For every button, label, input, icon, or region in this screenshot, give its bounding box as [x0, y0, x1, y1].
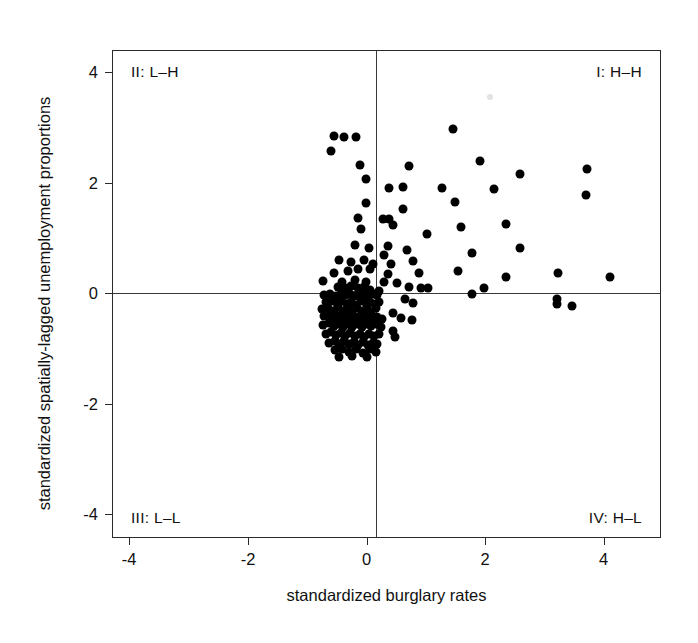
scatter-point — [391, 333, 400, 342]
scatter-point — [343, 266, 352, 275]
moran-scatterplot-figure: standardized spatially-lagged unemployme… — [0, 0, 698, 643]
x-ticklabel-0: 0 — [347, 550, 387, 569]
scatter-point — [438, 183, 447, 192]
y-axis-title: standardized spatially-lagged unemployme… — [35, 54, 54, 554]
y-ticklabel-neg4: -4 — [58, 505, 98, 524]
scatter-point — [424, 284, 433, 293]
scatter-point — [479, 284, 488, 293]
scatter-point — [449, 124, 458, 133]
scatter-point — [408, 299, 417, 308]
scatter-point — [361, 175, 370, 184]
scatter-point — [372, 347, 381, 356]
scatter-point — [329, 268, 338, 277]
scatter-point — [352, 133, 361, 142]
scatter-point — [354, 265, 363, 274]
y-tick-4 — [105, 72, 112, 73]
scatter-point — [360, 256, 369, 265]
scatter-point — [318, 277, 327, 286]
scatter-point — [335, 352, 344, 361]
x-tick-4 — [604, 538, 605, 545]
y-tick-neg2 — [105, 404, 112, 405]
scatter-point — [354, 214, 363, 223]
scatter-point — [467, 249, 476, 258]
quadrant-label-i: I: H–H — [596, 63, 642, 81]
x-tick-neg4 — [129, 538, 130, 545]
x-ticklabel-neg2: -2 — [228, 550, 268, 569]
scatter-point — [396, 313, 405, 322]
x-tick-2 — [485, 538, 486, 545]
scatter-point — [456, 223, 465, 232]
plot-area: II: L–H I: H–H III: L–L IV: H–L — [112, 50, 661, 538]
scatter-point — [329, 132, 338, 141]
scatter-point — [568, 301, 577, 310]
scatter-point — [490, 185, 499, 194]
scatter-point — [335, 256, 344, 265]
x-tick-0 — [367, 538, 368, 545]
scatter-point — [386, 259, 395, 268]
x-ticklabel-2: 2 — [465, 550, 505, 569]
scatter-point — [326, 146, 335, 155]
scatter-point — [408, 257, 417, 266]
scatter-point — [348, 351, 357, 360]
scatter-point — [379, 215, 388, 224]
scatter-point — [407, 316, 416, 325]
scatter-point — [515, 170, 524, 179]
y-ticklabel-neg2: -2 — [58, 394, 98, 413]
y-ticklabel-0: 0 — [58, 284, 98, 303]
y-tick-0 — [105, 293, 112, 294]
scatter-point — [388, 221, 397, 230]
scatter-point — [582, 191, 591, 200]
scatter-point — [392, 279, 401, 288]
scatter-point — [453, 266, 462, 275]
scatter-point — [583, 165, 592, 174]
x-ticklabel-4: 4 — [584, 550, 624, 569]
scatter-point — [355, 161, 364, 170]
scatter-point — [362, 352, 371, 361]
scatter-point — [399, 204, 408, 213]
y-tick-2 — [105, 183, 112, 184]
x-axis-title: standardized burglary rates — [112, 586, 661, 605]
quadrant-label-iv: IV: H–L — [589, 509, 642, 527]
scatter-point — [339, 133, 348, 142]
y-tick-neg4 — [105, 514, 112, 515]
scatter-point — [405, 161, 414, 170]
scatter-point — [385, 183, 394, 192]
scatter-points-layer — [113, 51, 660, 537]
scatter-point — [402, 245, 411, 254]
scatter-point — [357, 224, 366, 233]
scatter-point — [374, 329, 383, 338]
scatter-point — [351, 241, 360, 250]
scatter-point — [605, 272, 614, 281]
scatter-point — [366, 265, 375, 274]
scatter-point — [398, 182, 407, 191]
scatter-point — [450, 198, 459, 207]
scatter-point — [365, 244, 374, 253]
y-ticklabel-4: 4 — [58, 62, 98, 81]
scatter-point — [554, 268, 563, 277]
scatter-point — [502, 220, 511, 229]
scatter-point — [552, 300, 561, 309]
scatter-point — [380, 278, 389, 287]
scatter-point — [361, 199, 370, 208]
scatter-point — [404, 283, 413, 292]
y-ticklabel-2: 2 — [58, 173, 98, 192]
scatter-point — [515, 244, 524, 253]
scatter-point — [380, 250, 389, 259]
scatter-point — [414, 268, 423, 277]
x-ticklabel-neg4: -4 — [109, 550, 149, 569]
quadrant-label-iii: III: L–L — [131, 509, 181, 527]
scatter-point — [467, 289, 476, 298]
quadrant-label-ii: II: L–H — [131, 63, 179, 81]
x-tick-neg2 — [248, 538, 249, 545]
scatter-point — [502, 272, 511, 281]
scatter-point — [423, 229, 432, 238]
scatter-point — [475, 157, 484, 166]
